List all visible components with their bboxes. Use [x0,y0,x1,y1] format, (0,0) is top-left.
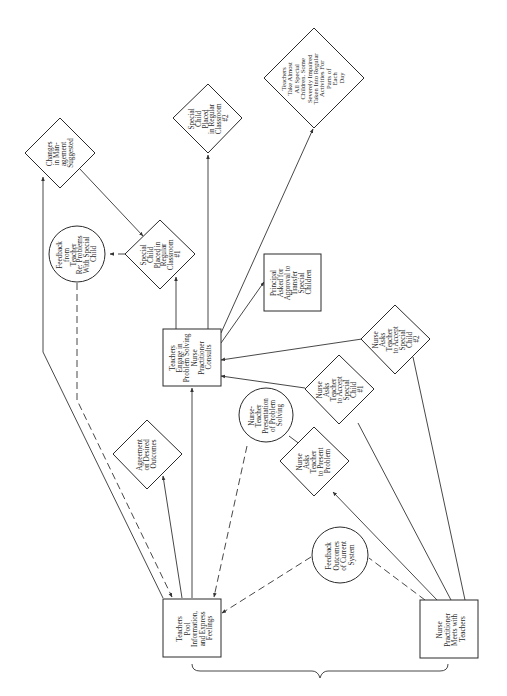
edge-teachers-pool-to-agreement [163,476,182,598]
node-special-child-1: Special Child Placed in Regular Classroo… [125,220,195,289]
node-nurse-teacher-presentation: Nurse- Teacher Presentation of Problem S… [239,388,293,442]
edge-feedback-outcomes-to-teachers-pool [222,557,311,613]
node-nurse-asks-accept-1: Nurse Asks Teacher to Accept Special Chi… [305,355,374,424]
node-agreement: Agreement on Desired Outcomes [113,420,182,489]
node-special-child-2: Special Child Placed in Regular Classroo… [173,84,242,153]
edge-presentation-to-teachers-pool [214,446,247,597]
edge-nurse-meets-to-nurse-asks-accept-1 [358,423,451,600]
node-principal-asked: Principal Asked for Approval to Transfer… [264,254,321,311]
edges [43,129,465,613]
bottom-brace [192,664,448,678]
node-changes-management: Changes in Man- agement Suggested [25,118,95,188]
node-teachers-pool: Teachers Pool Information, and Express F… [163,599,221,657]
edge-changes-to-special-child-1 [79,168,143,236]
edge-accept-1-to-teachers-engage [221,376,305,388]
node-feedback-teacher: Feedback from Teacher Re: Problems With … [49,226,105,282]
edge-teachers-engage-to-principal [221,282,264,343]
node-feedback-outcomes: Feedback Outcomes of Current System [312,527,368,583]
node-label: Agreement on Desired Outcomes [136,437,158,471]
edge-nurse-meets-to-nurse-asks-accept-2 [413,357,465,600]
node-nurse-meets: Nurse Practitioner Meets with Teachers [420,600,478,658]
node-teachers-take-all: Teachers Take Almost All Special Childre… [264,28,364,128]
node-nurse-asks-accept-2: Nurse Asks Teacher to Accept Special Chi… [361,305,430,374]
node-label: Changes in Man- agement Suggested [46,138,75,168]
flow-diagram: Teachers Pool Information, and Express F… [0,0,507,696]
node-teachers-engage: Teachers Engage in Problem Solving Nurse… [163,329,221,386]
